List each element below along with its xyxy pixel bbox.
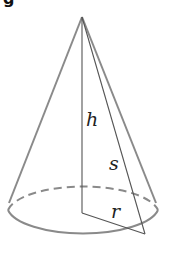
cone-left-edge (9, 17, 82, 203)
height-label: h (86, 108, 98, 130)
radius-label: r (111, 200, 122, 222)
base-back-arc-dashed (8, 187, 158, 210)
slant-height-label: s (109, 152, 119, 174)
cropped-heading-fragment: g (3, 0, 14, 8)
cone-diagram: g h s r (0, 0, 173, 256)
